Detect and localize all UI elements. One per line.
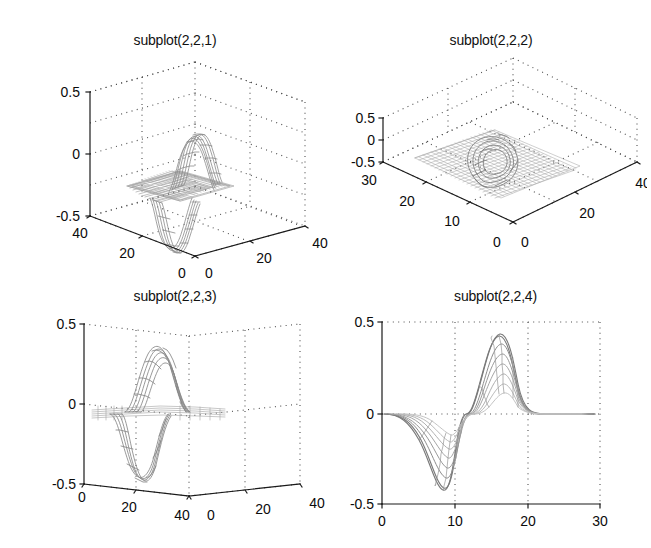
subplot-3-ytick-0: 0 bbox=[78, 489, 86, 505]
subplot-3-mesh-surface bbox=[92, 406, 225, 420]
subplot-3-xtick-2: 40 bbox=[309, 495, 325, 511]
subplot-4-tick-labels: 0.5 0 -0.5 0 10 20 30 bbox=[350, 314, 608, 529]
subplot-3-canvas: 0.5 0 -0.5 0 20 40 0 20 40 bbox=[20, 288, 330, 546]
subplot-2-ztick-0: 0.5 bbox=[356, 110, 376, 126]
subplot-2-xtick-2: 40 bbox=[635, 175, 651, 191]
subplot-2-ytick-1: 20 bbox=[399, 193, 415, 209]
subplot-2-gridlines bbox=[383, 58, 637, 222]
subplot-1-negative-lobe bbox=[150, 198, 200, 253]
subplot-2-xtick-1: 20 bbox=[579, 205, 595, 221]
subplot-panel-2: subplot(2,2,2) bbox=[335, 30, 647, 285]
subplot-4-xtick-0: 0 bbox=[378, 513, 386, 529]
subplot-3-ztick-1: 0 bbox=[68, 396, 76, 412]
subplot-3-tick-labels: 0.5 0 -0.5 0 20 40 0 20 40 bbox=[52, 316, 325, 523]
matlab-figure: subplot(2,2,1) bbox=[0, 0, 651, 548]
subplot-3-positive-lobe bbox=[125, 346, 190, 412]
subplot-2-ytick-2: 10 bbox=[444, 213, 460, 229]
subplot-3-axes bbox=[80, 324, 302, 499]
subplot-4-xtick-3: 30 bbox=[592, 513, 608, 529]
subplot-3-xtick-1: 20 bbox=[255, 501, 271, 517]
subplot-3-ytick-1: 20 bbox=[121, 499, 137, 515]
subplot-3-gridlines bbox=[84, 324, 300, 496]
subplot-3-ztick-2: -0.5 bbox=[52, 476, 76, 492]
subplot-3-negative-lobe bbox=[110, 414, 171, 482]
subplot-4-xtick-1: 10 bbox=[447, 513, 463, 529]
subplot-1-ytick-2: 0 bbox=[178, 265, 186, 281]
subplot-4-profile-mesh bbox=[384, 334, 595, 490]
subplot-1-ztick-2: -0.5 bbox=[56, 208, 80, 224]
subplot-2-ytick-3: 0 bbox=[493, 234, 501, 250]
subplot-4-xtick-2: 20 bbox=[520, 513, 536, 529]
subplot-4-ytick-0: 0.5 bbox=[355, 314, 375, 330]
subplot-3-ztick-0: 0.5 bbox=[57, 316, 77, 332]
subplot-1-canvas: 0.5 0 -0.5 40 20 0 0 20 40 bbox=[20, 30, 330, 285]
subplot-2-ztick-2: -0.5 bbox=[351, 154, 375, 170]
subplot-1-axes bbox=[86, 92, 308, 258]
subplot-panel-4: subplot(2,2,4) bbox=[340, 288, 651, 546]
subplot-1-gridlines bbox=[90, 62, 305, 256]
subplot-2-canvas: 0.5 0 -0.5 30 20 10 0 0 20 40 bbox=[335, 30, 647, 285]
subplot-4-ytick-1: 0 bbox=[366, 406, 374, 422]
subplot-1-xtick-2: 40 bbox=[312, 235, 328, 251]
subplot-1-xtick-0: 0 bbox=[205, 265, 213, 281]
subplot-1-ytick-1: 20 bbox=[119, 245, 135, 261]
subplot-panel-1: subplot(2,2,1) bbox=[20, 30, 330, 285]
subplot-2-xtick-0: 0 bbox=[521, 234, 529, 250]
subplot-1-xtick-1: 20 bbox=[256, 250, 272, 266]
subplot-2-ztick-1: 0 bbox=[367, 132, 375, 148]
subplot-4-canvas: 0.5 0 -0.5 0 10 20 30 bbox=[340, 288, 651, 546]
subplot-1-ytick-0: 40 bbox=[72, 225, 88, 241]
subplot-panel-3: subplot(2,2,3) bbox=[20, 288, 330, 546]
subplot-3-ytick-2: 40 bbox=[174, 507, 190, 523]
subplot-1-ztick-0: 0.5 bbox=[61, 84, 81, 100]
subplot-2-ytick-0: 30 bbox=[361, 172, 377, 188]
subplot-4-gridlines bbox=[382, 322, 600, 504]
subplot-1-ztick-1: 0 bbox=[72, 146, 80, 162]
subplot-3-xtick-0: 0 bbox=[207, 507, 215, 523]
subplot-4-ytick-2: -0.5 bbox=[350, 496, 374, 512]
